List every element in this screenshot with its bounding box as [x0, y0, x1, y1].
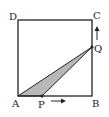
geometry-diagram: D C Q A P B — [0, 0, 109, 117]
label-p: P — [38, 99, 45, 110]
point-p — [40, 94, 43, 97]
arrow-up-icon — [95, 26, 100, 40]
label-b: B — [92, 98, 99, 109]
arrow-right-icon — [51, 99, 66, 104]
label-d: D — [9, 11, 17, 22]
label-q: Q — [94, 43, 102, 54]
shaded-triangle-apq — [18, 47, 92, 96]
label-c: C — [93, 10, 101, 21]
label-a: A — [11, 98, 20, 109]
